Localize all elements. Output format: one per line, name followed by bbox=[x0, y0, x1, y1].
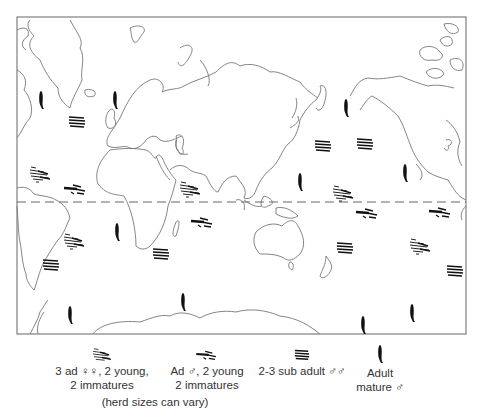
legend: 3 ad ♀♀, 2 young, 2 immatures Ad ♂, 2 yo… bbox=[0, 340, 484, 418]
legend-label-line2: 2 immatures bbox=[52, 378, 152, 392]
coastlines bbox=[17, 20, 466, 334]
subadult-group-markers bbox=[43, 117, 463, 276]
world-map bbox=[0, 0, 484, 340]
legend-label-line1: 2-3 sub adult ♂♂ bbox=[252, 364, 352, 378]
legend-item-mixed-herd: 3 ad ♀♀, 2 young, 2 immatures bbox=[52, 346, 152, 392]
legend-label-line2: mature ♂ bbox=[355, 380, 405, 394]
legend-note: (herd sizes can vary) bbox=[100, 396, 210, 408]
legend-label-line1: Adult bbox=[355, 366, 405, 380]
subadult-group-icon bbox=[291, 346, 313, 362]
legend-item-subadult-group: 2-3 sub adult ♂♂ bbox=[252, 346, 352, 378]
mixed-herd-icon bbox=[89, 346, 115, 362]
single-whale-icon bbox=[375, 344, 385, 364]
legend-item-single-whale: Adult mature ♂ bbox=[355, 344, 405, 394]
legend-item-male-herd: Ad ♂, 2 young 2 immatures bbox=[162, 346, 252, 392]
male-herd-icon bbox=[193, 346, 221, 362]
legend-label-line1: 3 ad ♀♀, 2 young, bbox=[52, 364, 152, 378]
legend-label-line1: Ad ♂, 2 young bbox=[162, 364, 252, 378]
legend-label-line2: 2 immatures bbox=[162, 378, 252, 392]
